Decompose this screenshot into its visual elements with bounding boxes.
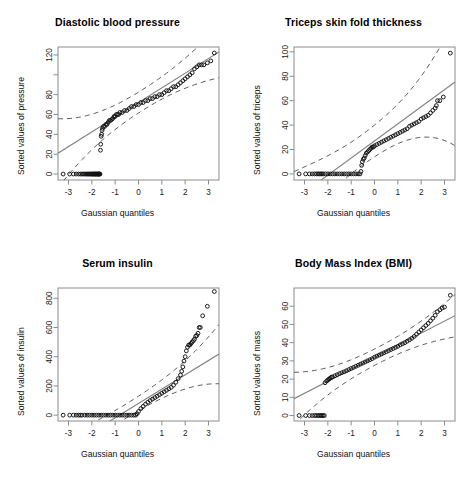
y-tick-label: 30	[281, 356, 290, 366]
y-tick-label: 0	[281, 413, 290, 418]
data-point	[181, 365, 185, 369]
data-point	[61, 413, 65, 417]
y-tick-label: 60	[281, 301, 290, 311]
y-tick-label: 0	[45, 171, 54, 176]
x-tick-label: -3	[301, 429, 309, 438]
reference-line	[58, 354, 219, 453]
x-tick-label: 0	[136, 188, 141, 197]
x-tick-label: -3	[301, 188, 309, 197]
y-tick-label: 400	[45, 349, 54, 363]
y-tick-label: 120	[45, 48, 54, 62]
data-point	[304, 414, 308, 418]
x-tick-label: -3	[65, 188, 73, 197]
x-tick-label: 3	[442, 429, 447, 438]
x-tick-label: -3	[65, 429, 73, 438]
panel-triceps-skin-fold-thickness: Triceps skin fold thicknessGaussian quan…	[236, 0, 471, 241]
x-tick-label: 2	[183, 188, 188, 197]
data-point	[433, 313, 437, 317]
x-tick-label: 0	[136, 429, 141, 438]
data-point	[448, 51, 452, 55]
data-point	[61, 172, 65, 176]
data-point	[448, 293, 452, 297]
x-tick-label: 0	[372, 429, 377, 438]
data-point	[304, 172, 308, 176]
x-tick-label: 1	[396, 188, 401, 197]
plot-area-serum-insulin: -3-2-101230200400600800	[0, 241, 235, 482]
data-point	[180, 369, 184, 373]
x-tick-label: 3	[442, 188, 447, 197]
y-tick-label: 50	[281, 319, 290, 329]
data-point	[419, 328, 423, 332]
y-tick-label: 40	[281, 338, 290, 348]
x-tick-label: 2	[183, 429, 188, 438]
data-point	[422, 326, 426, 330]
y-tick-label: 10	[281, 392, 290, 402]
y-tick-label: 100	[281, 45, 290, 59]
data-point	[99, 148, 103, 152]
x-tick-label: -1	[112, 188, 120, 197]
y-tick-label: 800	[45, 291, 54, 305]
x-tick-label: 3	[206, 429, 211, 438]
x-tick-label: 3	[206, 188, 211, 197]
y-tick-label: 40	[281, 120, 290, 130]
data-point	[424, 324, 428, 328]
y-tick-label: 0	[281, 171, 290, 176]
plot-frame	[294, 47, 455, 180]
y-tick-label: 20	[281, 374, 290, 384]
y-tick-label: 200	[45, 379, 54, 393]
plot-area-body-mass-index: -3-2-101230102030405060	[236, 241, 471, 482]
data-layer	[58, 290, 219, 466]
x-tick-label: -2	[88, 429, 96, 438]
panel-body-mass-index: Body Mass Index (BMI)Gaussian quantilesS…	[236, 241, 471, 482]
x-tick-label: 1	[396, 429, 401, 438]
x-tick-label: -2	[88, 188, 96, 197]
x-tick-label: -2	[324, 429, 332, 438]
lower-confidence-band	[58, 78, 219, 188]
reference-line	[294, 316, 455, 399]
data-point	[182, 359, 186, 363]
x-tick-label: -2	[324, 188, 332, 197]
data-point	[205, 304, 209, 308]
data-point	[183, 355, 187, 359]
plot-frame	[58, 288, 219, 421]
data-point	[68, 413, 72, 417]
x-tick-label: -1	[112, 429, 120, 438]
plot-frame	[294, 288, 455, 421]
panel-diastolic-blood-pressure: Diastolic blood pressureGaussian quantil…	[0, 0, 235, 241]
x-tick-label: 1	[160, 188, 165, 197]
data-points	[297, 51, 452, 176]
data-point	[297, 172, 301, 176]
y-tick-label: 60	[281, 96, 290, 106]
panel-serum-insulin: Serum insulinGaussian quantilesSorted va…	[0, 241, 235, 482]
y-tick-label: 80	[281, 71, 290, 81]
lower-confidence-band	[294, 337, 455, 425]
y-tick-label: 20	[281, 144, 290, 154]
data-point	[212, 290, 216, 294]
data-point	[441, 95, 445, 99]
data-points	[61, 290, 216, 417]
x-tick-label: 2	[419, 188, 424, 197]
data-point	[201, 314, 205, 318]
y-tick-label: 40	[45, 129, 54, 139]
upper-confidence-band	[294, 295, 455, 373]
x-tick-label: 2	[419, 429, 424, 438]
data-points	[297, 293, 452, 417]
y-tick-label: 20	[45, 149, 54, 159]
data-point	[209, 59, 213, 63]
x-tick-label: 1	[160, 429, 165, 438]
data-point	[99, 142, 103, 146]
data-layer	[294, 293, 455, 425]
y-tick-label: 600	[45, 320, 54, 334]
x-tick-label: -1	[348, 429, 356, 438]
x-tick-label: -1	[348, 188, 356, 197]
y-tick-label: 60	[45, 109, 54, 119]
qq-plot-figure: Diastolic blood pressureGaussian quantil…	[0, 0, 471, 482]
y-tick-label: 80	[45, 90, 54, 100]
data-point	[417, 330, 421, 334]
plot-area-diastolic-blood-pressure: -3-2-10123020406080120	[0, 0, 235, 241]
x-tick-label: 0	[372, 188, 377, 197]
plot-area-triceps-skin-fold-thickness: -3-2-10123020406080100	[236, 0, 471, 241]
data-layer	[58, 26, 219, 188]
y-tick-label: 0	[45, 412, 54, 417]
data-point	[297, 414, 301, 418]
